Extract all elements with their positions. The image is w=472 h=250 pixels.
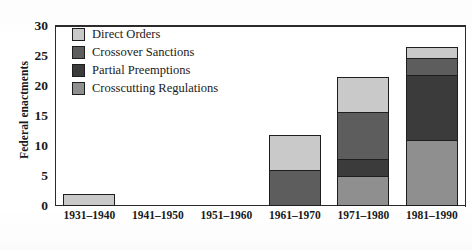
- bar-segment: [337, 77, 389, 113]
- legend-swatch-icon: [72, 46, 85, 59]
- stacked-bar-chart: Federal enactments 302520151050 1931–194…: [0, 0, 472, 250]
- y-axis-tick-label: 0: [16, 199, 48, 213]
- bar-group: [261, 26, 330, 206]
- x-axis-ticks: 1931–19401941–19501951–19601961–19701971…: [55, 209, 466, 229]
- bar-segment: [269, 135, 321, 171]
- bar-group: [329, 26, 398, 206]
- legend-item-label: Crossover Sanctions: [92, 46, 194, 59]
- x-axis-tick-label: 1931–1940: [63, 209, 115, 221]
- y-axis-tick-label: 25: [16, 49, 48, 63]
- legend-item: Crosscutting Regulations: [72, 80, 218, 96]
- legend-item: Direct Orders: [72, 26, 218, 42]
- y-axis-tick-label: 30: [16, 19, 48, 33]
- legend-item-label: Crosscutting Regulations: [92, 82, 218, 95]
- legend-swatch-icon: [72, 64, 85, 77]
- bar-group: [398, 26, 467, 206]
- legend-swatch-icon: [72, 28, 85, 41]
- bar-segment: [269, 170, 321, 206]
- bar-segment: [406, 58, 458, 76]
- x-axis-tick-label: 1971–1980: [337, 209, 389, 221]
- bar-segment: [63, 194, 115, 206]
- x-axis-tick-label: 1951–1960: [200, 209, 252, 221]
- bar-stack: [337, 78, 389, 206]
- y-axis-tick-label: 15: [16, 109, 48, 123]
- x-axis-tick-label: 1941–1950: [132, 209, 184, 221]
- bar-segment: [337, 176, 389, 206]
- y-axis-tick-label: 20: [16, 79, 48, 93]
- legend-item-label: Direct Orders: [92, 28, 160, 41]
- bar-segment: [337, 159, 389, 177]
- legend-item: Partial Preemptions: [72, 62, 218, 78]
- x-axis-tick-label: 1981–1990: [406, 209, 458, 221]
- legend-item-label: Partial Preemptions: [92, 64, 190, 77]
- bar-stack: [269, 136, 321, 206]
- legend-item: Crossover Sanctions: [72, 44, 218, 60]
- y-axis-tick-label: 5: [16, 169, 48, 183]
- bar-stack: [63, 195, 115, 206]
- bar-stack: [406, 48, 458, 206]
- chart-legend: Direct OrdersCrossover SanctionsPartial …: [72, 26, 218, 96]
- bar-segment: [406, 140, 458, 206]
- bar-segment: [406, 75, 458, 141]
- legend-swatch-icon: [72, 82, 85, 95]
- x-axis-tick-label: 1961–1970: [269, 209, 321, 221]
- y-axis-tick-label: 10: [16, 139, 48, 153]
- bar-segment: [337, 112, 389, 160]
